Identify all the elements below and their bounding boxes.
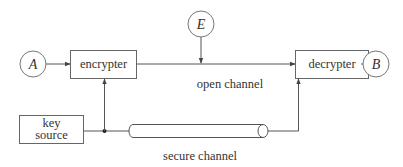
encrypter-box: encrypter bbox=[71, 51, 137, 79]
node-eve-label: E bbox=[196, 17, 206, 32]
decrypter-label: decrypter bbox=[308, 57, 356, 71]
node-bob: B bbox=[363, 51, 389, 77]
key-source-label-line2: source bbox=[35, 128, 68, 142]
edge-secure-decrypter bbox=[268, 79, 299, 131]
key-source-box: key source bbox=[20, 116, 84, 144]
open-channel-label: open channel bbox=[197, 77, 264, 91]
crypto-diagram: A encrypter open channel E decrypter B k… bbox=[0, 0, 403, 167]
node-alice-label: A bbox=[28, 57, 38, 72]
node-eve: E bbox=[188, 11, 214, 37]
secure-channel-pipe bbox=[129, 125, 268, 138]
encrypter-label: encrypter bbox=[80, 57, 128, 71]
node-bob-label: B bbox=[372, 57, 381, 72]
decrypter-box: decrypter bbox=[296, 51, 369, 79]
secure-channel-label: secure channel bbox=[163, 149, 237, 163]
node-alice: A bbox=[20, 51, 46, 77]
